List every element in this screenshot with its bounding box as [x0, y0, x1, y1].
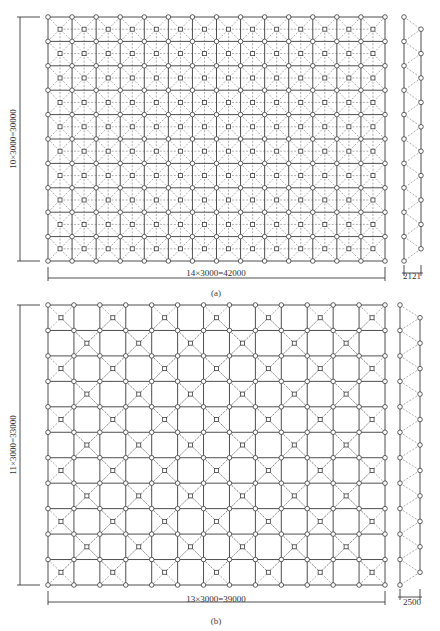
height-dimension-b: 11×3000=33000: [8, 415, 18, 475]
depth-dimension-b: 2500: [403, 597, 422, 607]
height-dimension-a: 10×3000=30000: [8, 109, 18, 169]
side-view-a: [402, 15, 424, 276]
figure-b-checker-pyramid-grid: 13×3000=39000 11×3000=33000 2500 (b): [8, 303, 422, 626]
figure-a-square-pyramid-grid: 14×3000=42000 10×3000=30000 2121 (a): [8, 15, 423, 298]
figure-label-b: (b): [211, 616, 222, 626]
figure-label-a: (a): [211, 288, 221, 298]
width-dimension-a: 14×3000=42000: [186, 268, 246, 278]
space-truss-drawing: 14×3000=42000 10×3000=30000 2121 (a) 13×…: [0, 0, 440, 631]
depth-dimension-a: 2121: [403, 271, 421, 281]
side-view-b: [398, 303, 423, 600]
plan-view-b: [17, 303, 387, 605]
width-dimension-b: 13×3000=39000: [186, 594, 246, 604]
plan-view-a: [17, 15, 387, 281]
